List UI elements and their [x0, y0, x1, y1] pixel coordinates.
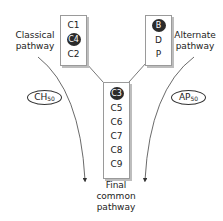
component-c9: C9 — [110, 157, 122, 171]
component-b: B — [152, 19, 166, 32]
component-p: P — [156, 47, 161, 61]
component-c5: C5 — [110, 101, 122, 115]
ap50-assay-badge: AP50 — [171, 90, 206, 105]
component-c1: C1 — [67, 18, 79, 32]
final-common-pathway-label: Final common pathway — [92, 180, 140, 213]
common-components-box: C3 C5 C6 C7 C8 C9 — [103, 82, 130, 179]
component-d: D — [155, 33, 162, 47]
classical-components-box: C1 C4 C2 — [60, 15, 87, 66]
component-c7: C7 — [110, 129, 122, 143]
component-c6: C6 — [110, 115, 122, 129]
ch50-assay-badge: CH50 — [27, 90, 62, 105]
component-c2: C2 — [67, 47, 79, 61]
classical-pathway-label: Classical pathway — [14, 30, 56, 52]
alternate-pathway-label: Alternate pathway — [174, 30, 216, 52]
component-c3: C3 — [110, 87, 124, 100]
component-c4: C4 — [67, 33, 81, 46]
component-c8: C8 — [110, 143, 122, 157]
alternate-components-box: B D P — [145, 15, 172, 66]
